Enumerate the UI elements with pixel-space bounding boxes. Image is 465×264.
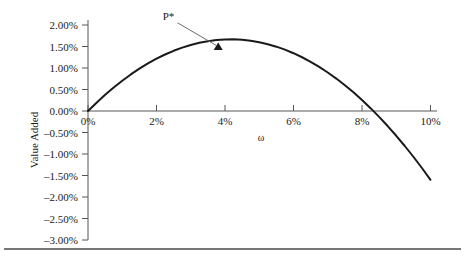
y-tick-label: –2.00%: [43, 191, 78, 203]
x-tick-label: 2%: [149, 115, 164, 127]
figure-container: 2.00% 1.50% 1.00% 0.50% 0.00% –0.50% –1.…: [0, 0, 465, 264]
y-tick-label: 0.50%: [50, 84, 78, 96]
peak-marker-triangle: [214, 42, 223, 50]
x-axis-title: ω: [258, 132, 265, 143]
y-tick-label: 0.00%: [50, 105, 78, 117]
x-tick-label: 8%: [355, 115, 370, 127]
annotation-label-p-star: P*: [163, 10, 175, 22]
y-tick-label: 1.50%: [50, 41, 78, 53]
data-series-line: [88, 39, 431, 179]
y-tick-label: 2.00%: [50, 19, 78, 31]
annotation-arrow-line: [178, 23, 217, 46]
y-tick-label: –1.00%: [43, 148, 78, 160]
y-tick-label: 1.00%: [50, 62, 78, 74]
x-tick-label: 10%: [420, 115, 440, 127]
y-tick-label: –0.50%: [43, 127, 78, 139]
chart-canvas: 2.00% 1.50% 1.00% 0.50% 0.00% –0.50% –1.…: [0, 0, 465, 264]
y-tick-marks: [82, 25, 88, 240]
x-tick-label: 6%: [286, 115, 301, 127]
x-tick-label: 4%: [218, 115, 233, 127]
y-tick-labels: 2.00% 1.50% 1.00% 0.50% 0.00% –0.50% –1.…: [43, 19, 78, 246]
y-tick-label: –2.50%: [43, 213, 78, 225]
x-tick-marks: [88, 105, 431, 111]
axis-group: [88, 20, 437, 240]
y-tick-label: –3.00%: [43, 234, 78, 246]
x-tick-label: 0%: [81, 115, 96, 127]
y-tick-label: –1.50%: [43, 170, 78, 182]
y-axis-title: Value Added: [28, 111, 40, 168]
